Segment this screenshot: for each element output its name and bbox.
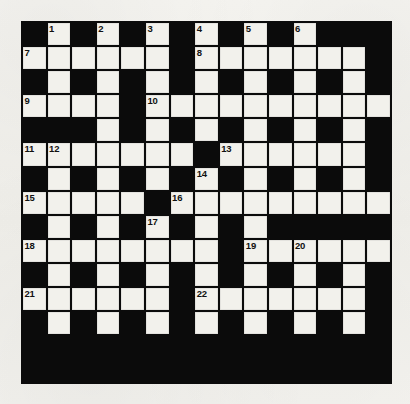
- crossword-cell-white[interactable]: [194, 191, 219, 215]
- crossword-cell-white[interactable]: [194, 239, 219, 263]
- crossword-cell-white[interactable]: [243, 118, 268, 142]
- crossword-cell-white[interactable]: 2: [96, 22, 121, 46]
- crossword-cell-white[interactable]: [342, 142, 367, 166]
- crossword-cell-white[interactable]: [71, 191, 96, 215]
- crossword-cell-white[interactable]: [47, 311, 72, 335]
- crossword-cell-white[interactable]: [145, 167, 170, 191]
- crossword-cell-white[interactable]: [342, 239, 367, 263]
- crossword-cell-white[interactable]: 1: [47, 22, 72, 46]
- crossword-cell-white[interactable]: [194, 118, 219, 142]
- crossword-cell-white[interactable]: [194, 70, 219, 94]
- crossword-cell-white[interactable]: [47, 70, 72, 94]
- crossword-cell-white[interactable]: [145, 142, 170, 166]
- crossword-cell-white[interactable]: [96, 191, 121, 215]
- crossword-cell-white[interactable]: [96, 118, 121, 142]
- crossword-cell-white[interactable]: 13: [219, 142, 244, 166]
- crossword-cell-white[interactable]: [317, 94, 342, 118]
- crossword-cell-white[interactable]: 19: [243, 239, 268, 263]
- crossword-cell-white[interactable]: [317, 142, 342, 166]
- crossword-cell-white[interactable]: [293, 94, 318, 118]
- crossword-cell-white[interactable]: [268, 287, 293, 311]
- crossword-cell-white[interactable]: [243, 263, 268, 287]
- crossword-cell-white[interactable]: [96, 70, 121, 94]
- crossword-grid[interactable]: 12345678910111213141516171819202122: [21, 21, 392, 384]
- crossword-cell-white[interactable]: [194, 215, 219, 239]
- crossword-cell-white[interactable]: [243, 215, 268, 239]
- crossword-cell-white[interactable]: [96, 263, 121, 287]
- crossword-cell-white[interactable]: 11: [22, 142, 47, 166]
- crossword-cell-white[interactable]: [145, 70, 170, 94]
- crossword-cell-white[interactable]: [145, 239, 170, 263]
- crossword-cell-white[interactable]: [342, 287, 367, 311]
- crossword-cell-white[interactable]: 9: [22, 94, 47, 118]
- crossword-cell-white[interactable]: 22: [194, 287, 219, 311]
- crossword-cell-white[interactable]: [120, 46, 145, 70]
- crossword-cell-white[interactable]: [96, 94, 121, 118]
- crossword-cell-white[interactable]: [317, 46, 342, 70]
- crossword-cell-white[interactable]: 15: [22, 191, 47, 215]
- crossword-cell-white[interactable]: 7: [22, 46, 47, 70]
- crossword-cell-white[interactable]: [145, 263, 170, 287]
- crossword-cell-white[interactable]: [120, 239, 145, 263]
- crossword-cell-white[interactable]: [145, 118, 170, 142]
- crossword-cell-white[interactable]: [366, 239, 391, 263]
- crossword-cell-white[interactable]: [366, 94, 391, 118]
- crossword-cell-white[interactable]: 21: [22, 287, 47, 311]
- crossword-cell-white[interactable]: [243, 142, 268, 166]
- crossword-cell-white[interactable]: [194, 311, 219, 335]
- crossword-cell-white[interactable]: [243, 191, 268, 215]
- crossword-cell-white[interactable]: [317, 191, 342, 215]
- crossword-cell-white[interactable]: [96, 311, 121, 335]
- crossword-cell-white[interactable]: [268, 239, 293, 263]
- crossword-cell-white[interactable]: [120, 191, 145, 215]
- crossword-cell-white[interactable]: [96, 215, 121, 239]
- crossword-cell-white[interactable]: [47, 191, 72, 215]
- crossword-cell-white[interactable]: [293, 311, 318, 335]
- crossword-cell-white[interactable]: [71, 94, 96, 118]
- crossword-cell-white[interactable]: [243, 167, 268, 191]
- crossword-cell-white[interactable]: 12: [47, 142, 72, 166]
- crossword-cell-white[interactable]: [219, 287, 244, 311]
- crossword-cell-white[interactable]: [96, 46, 121, 70]
- crossword-cell-white[interactable]: [219, 191, 244, 215]
- crossword-cell-white[interactable]: [47, 167, 72, 191]
- crossword-cell-white[interactable]: [47, 287, 72, 311]
- crossword-cell-white[interactable]: [293, 191, 318, 215]
- crossword-cell-white[interactable]: [145, 287, 170, 311]
- crossword-cell-white[interactable]: [219, 46, 244, 70]
- crossword-cell-white[interactable]: [243, 311, 268, 335]
- crossword-cell-white[interactable]: [293, 263, 318, 287]
- crossword-cell-white[interactable]: [268, 191, 293, 215]
- crossword-cell-white[interactable]: [342, 167, 367, 191]
- crossword-cell-white[interactable]: [170, 94, 195, 118]
- crossword-cell-white[interactable]: 4: [194, 22, 219, 46]
- crossword-cell-white[interactable]: [243, 287, 268, 311]
- crossword-cell-white[interactable]: [96, 142, 121, 166]
- crossword-cell-white[interactable]: [293, 118, 318, 142]
- crossword-cell-white[interactable]: [71, 46, 96, 70]
- crossword-cell-white[interactable]: [71, 239, 96, 263]
- crossword-cell-white[interactable]: [71, 287, 96, 311]
- crossword-cell-white[interactable]: [47, 263, 72, 287]
- crossword-cell-white[interactable]: [219, 94, 244, 118]
- crossword-cell-white[interactable]: [47, 239, 72, 263]
- crossword-cell-white[interactable]: [96, 167, 121, 191]
- crossword-cell-white[interactable]: [170, 239, 195, 263]
- crossword-cell-white[interactable]: 3: [145, 22, 170, 46]
- crossword-cell-white[interactable]: [342, 94, 367, 118]
- crossword-cell-white[interactable]: [96, 287, 121, 311]
- crossword-cell-white[interactable]: [71, 142, 96, 166]
- crossword-cell-white[interactable]: [293, 70, 318, 94]
- crossword-cell-white[interactable]: [342, 311, 367, 335]
- crossword-cell-white[interactable]: [268, 142, 293, 166]
- crossword-cell-white[interactable]: [293, 142, 318, 166]
- crossword-cell-white[interactable]: [145, 311, 170, 335]
- crossword-cell-white[interactable]: [120, 287, 145, 311]
- crossword-cell-white[interactable]: 6: [293, 22, 318, 46]
- crossword-cell-white[interactable]: [317, 239, 342, 263]
- crossword-cell-white[interactable]: [342, 118, 367, 142]
- crossword-cell-white[interactable]: [342, 263, 367, 287]
- crossword-cell-white[interactable]: [47, 46, 72, 70]
- crossword-cell-white[interactable]: [243, 70, 268, 94]
- crossword-cell-white[interactable]: [268, 46, 293, 70]
